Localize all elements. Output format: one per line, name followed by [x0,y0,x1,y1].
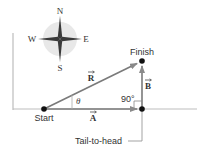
finish-label: Finish [130,47,154,57]
vector-addition-diagram: N S W E θ 90° Tail-to-head Start Finish … [0,0,210,152]
tail-to-head-label: Tail-to-head [75,136,122,146]
compass-east-label: E [83,34,89,44]
vector-b-label: B [145,79,152,91]
finish-point [139,58,145,64]
corner-point [139,106,145,112]
compass-north-label: N [57,6,64,16]
compass-rose-icon: N S W E [28,6,90,73]
theta-label: θ [76,96,81,106]
vector-a-label: A [90,111,97,123]
svg-text:A: A [90,113,97,123]
svg-text:R: R [88,73,95,83]
start-point [41,106,47,112]
callout-connector [128,109,142,141]
compass-south-label: S [57,63,62,73]
compass-west-label: W [28,34,37,44]
svg-text:B: B [145,81,151,91]
start-label: Start [34,113,54,123]
vector-r-label: R [88,71,95,83]
right-angle-label: 90° [121,94,135,104]
